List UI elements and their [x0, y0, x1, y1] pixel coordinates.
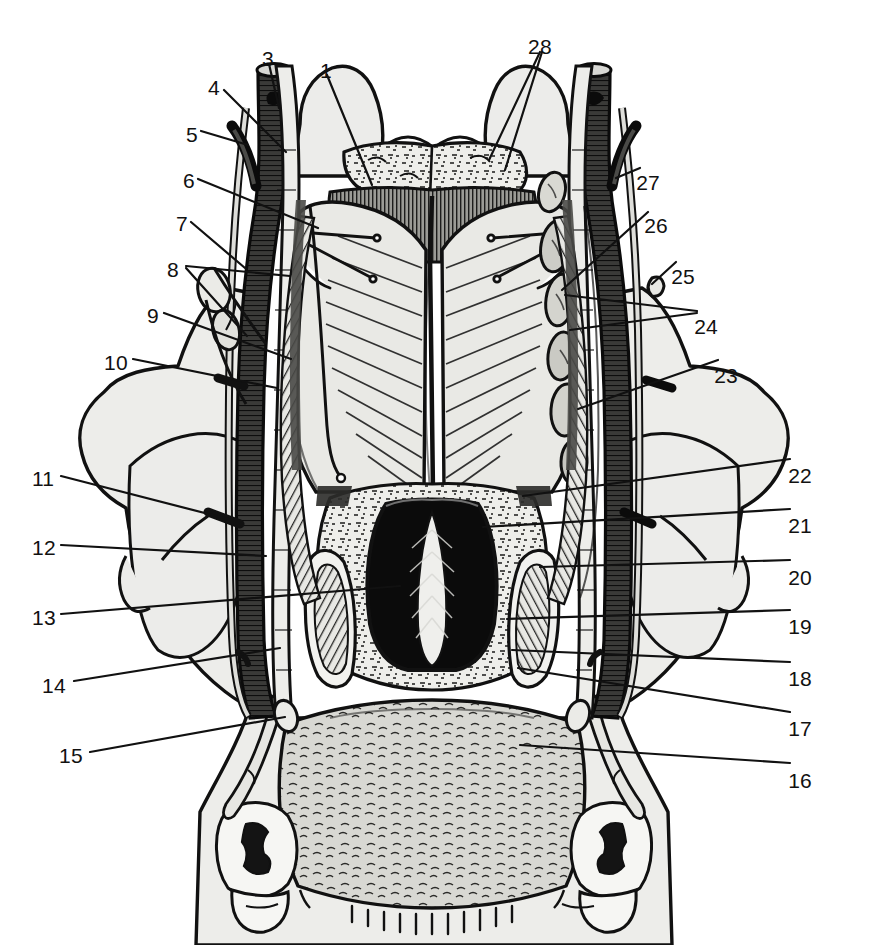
label-number-14: 14	[42, 675, 66, 696]
label-number-23: 23	[714, 365, 738, 386]
label-number-22: 22	[788, 465, 812, 486]
label-number-15: 15	[59, 745, 83, 766]
label-number-19: 19	[788, 616, 812, 637]
label-number-6: 6	[183, 170, 195, 191]
label-number-18: 18	[788, 668, 812, 689]
label-number-3: 3	[262, 48, 274, 69]
anatomy-illustration	[0, 0, 869, 945]
label-number-5: 5	[186, 124, 198, 145]
label-number-16: 16	[788, 770, 812, 791]
label-number-12: 12	[32, 537, 56, 558]
label-number-24: 24	[694, 316, 718, 337]
label-number-27: 27	[636, 172, 660, 193]
label-number-13: 13	[32, 607, 56, 628]
anatomical-plate: 1345678910111213141516171819202122232425…	[0, 0, 869, 945]
label-number-21: 21	[788, 515, 812, 536]
label-number-17: 17	[788, 718, 812, 739]
median-raphe	[430, 196, 433, 492]
label-number-25: 25	[671, 266, 695, 287]
label-number-10: 10	[104, 352, 128, 373]
label-number-7: 7	[176, 213, 188, 234]
label-number-20: 20	[788, 567, 812, 588]
label-number-28: 28	[528, 36, 552, 57]
label-number-4: 4	[208, 77, 220, 98]
label-number-26: 26	[644, 215, 668, 236]
label-number-8: 8	[167, 259, 179, 280]
label-number-1: 1	[320, 60, 332, 81]
label-number-9: 9	[147, 305, 159, 326]
label-number-11: 11	[32, 468, 54, 489]
